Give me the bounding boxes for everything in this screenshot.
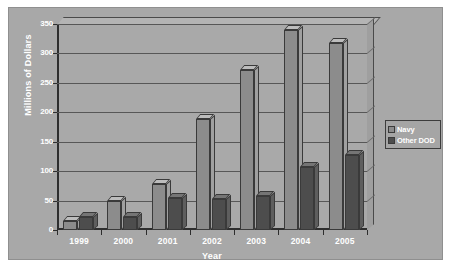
- x-axis-tick-label: 1999: [57, 236, 101, 250]
- x-axis-tick-mark: [234, 230, 235, 235]
- chart-legend: NavyOther DOD: [385, 120, 441, 149]
- x-axis-title: Year: [57, 251, 367, 261]
- legend-label: Other DOD: [397, 136, 435, 145]
- legend-item-navy[interactable]: Navy: [388, 124, 438, 134]
- x-axis-tick-label: 2001: [146, 236, 190, 250]
- x-axis-tick-marks: [9, 8, 444, 261]
- x-axis-tick-mark: [101, 230, 102, 235]
- x-axis-tick-mark: [278, 230, 279, 235]
- x-axis-tick-labels: 1999200020012002200320042005: [57, 236, 367, 250]
- x-axis-tick-label: 2000: [101, 236, 145, 250]
- x-axis-tick-label: 2005: [323, 236, 367, 250]
- legend-label: Navy: [397, 125, 415, 134]
- legend-item-other-dod[interactable]: Other DOD: [388, 135, 438, 145]
- legend-swatch-icon: [388, 137, 395, 144]
- chart-frame: 050100150200250300350 Millions of Dollar…: [8, 7, 443, 260]
- x-axis-tick-label: 2003: [234, 236, 278, 250]
- x-axis-tick-mark: [323, 230, 324, 235]
- x-axis-tick-mark: [367, 230, 368, 235]
- x-axis-tick-mark: [146, 230, 147, 235]
- legend-swatch-icon: [388, 126, 395, 133]
- x-axis-tick-mark: [190, 230, 191, 235]
- x-axis-tick-label: 2002: [190, 236, 234, 250]
- x-axis-tick-label: 2004: [278, 236, 322, 250]
- x-axis-tick-mark: [57, 230, 58, 235]
